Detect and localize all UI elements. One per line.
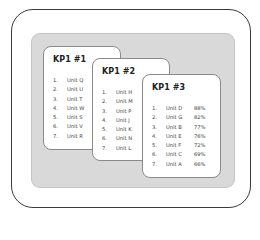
list-item: 5.Unit F72%	[152, 141, 220, 150]
rank-number: 1.	[102, 88, 116, 97]
percent-value: 77%	[194, 123, 206, 132]
rank-number: 4.	[53, 104, 67, 113]
unit-name: Unit M	[116, 97, 144, 106]
rank-number: 2.	[152, 113, 166, 122]
unit-name: Unit F	[166, 141, 194, 150]
unit-name: Unit G	[166, 113, 194, 122]
unit-name: Unit Q	[67, 76, 95, 85]
unit-name: Unit B	[166, 123, 194, 132]
unit-name: Unit P	[116, 107, 144, 116]
list-item: 7.Unit A66%	[152, 160, 220, 169]
rank-number: 7.	[53, 132, 67, 141]
rank-number: 5.	[53, 113, 67, 122]
unit-name: Unit A	[166, 160, 194, 169]
unit-name: Unit J	[116, 116, 144, 125]
list-item: 3.Unit B77%	[152, 123, 220, 132]
unit-name: Unit W	[67, 104, 95, 113]
unit-name: Unit L	[116, 144, 144, 153]
rank-number: 6.	[102, 134, 116, 143]
percent-value: 69%	[194, 150, 206, 159]
rank-number: 4.	[102, 116, 116, 125]
rank-number: 7.	[102, 144, 116, 153]
percent-value: 82%	[194, 113, 206, 122]
list-item: 6.Unit C69%	[152, 150, 220, 159]
rank-number: 5.	[102, 125, 116, 134]
rank-number: 3.	[102, 107, 116, 116]
unit-name: Unit S	[67, 113, 95, 122]
rank-number: 3.	[53, 95, 67, 104]
kpi-card-3: KP1 #3 1.Unit D88% 2.Unit G82% 3.Unit B7…	[142, 74, 221, 178]
unit-name: Unit U	[67, 85, 95, 94]
unit-name: Unit T	[67, 95, 95, 104]
rank-number: 6.	[53, 122, 67, 131]
unit-name: Unit E	[166, 132, 194, 141]
card-title: KP1 #3	[152, 83, 220, 92]
list-item: 1.Unit D88%	[152, 104, 220, 113]
unit-name: Unit D	[166, 104, 194, 113]
unit-name: Unit C	[166, 150, 194, 159]
rank-number: 5.	[152, 141, 166, 150]
unit-name: Unit H	[116, 88, 144, 97]
rank-number: 7.	[152, 160, 166, 169]
rank-number: 1.	[53, 76, 67, 85]
unit-name: Unit N	[116, 134, 144, 143]
rank-number: 3.	[152, 123, 166, 132]
unit-name: Unit R	[67, 132, 95, 141]
rank-number: 1.	[152, 104, 166, 113]
unit-name: Unit V	[67, 122, 95, 131]
percent-value: 66%	[194, 160, 206, 169]
percent-value: 76%	[194, 132, 206, 141]
rank-number: 6.	[152, 150, 166, 159]
ranking-list: 1.Unit D88% 2.Unit G82% 3.Unit B77% 4.Un…	[152, 104, 220, 169]
percent-value: 72%	[194, 141, 206, 150]
list-item: 4.Unit E76%	[152, 132, 220, 141]
rank-number: 2.	[53, 85, 67, 94]
rank-number: 2.	[102, 97, 116, 106]
rank-number: 4.	[152, 132, 166, 141]
unit-name: Unit K	[116, 125, 144, 134]
percent-value: 88%	[194, 104, 206, 113]
list-item: 2.Unit G82%	[152, 113, 220, 122]
